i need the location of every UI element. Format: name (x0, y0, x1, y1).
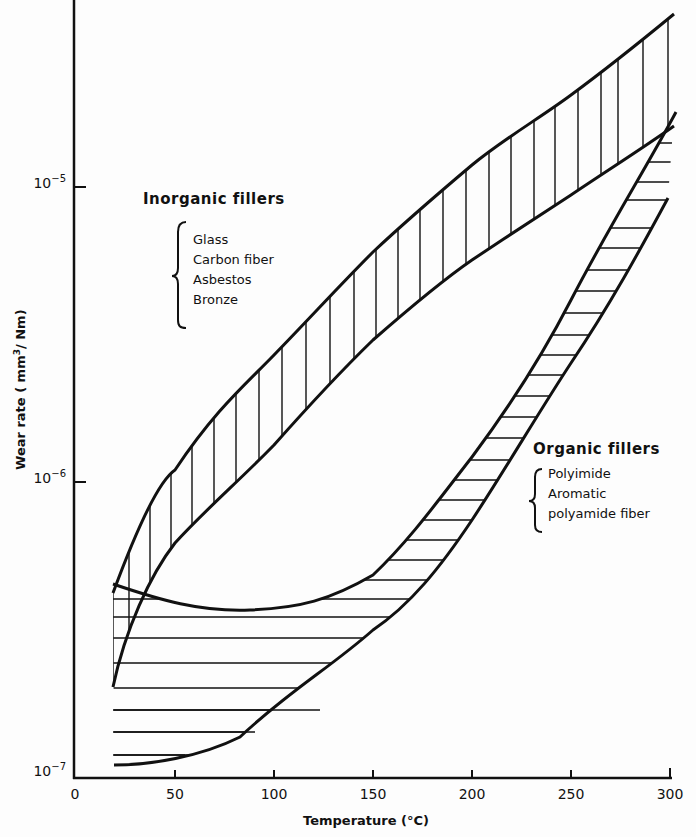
organic-item: Aromatic (548, 484, 650, 504)
x-tick-100: 100 (261, 786, 288, 802)
inorganic-item: Carbon fiber (193, 250, 274, 270)
wear-rate-chart (0, 0, 696, 837)
organic-upper-curve (113, 112, 676, 610)
organic-brace (529, 469, 542, 532)
x-tick-0: 0 (71, 786, 80, 802)
y-tick-1e-7: 10−7 (33, 761, 66, 779)
x-tick-300: 300 (657, 786, 684, 802)
inorganic-lower-curve (113, 126, 674, 687)
organic-item: polyamide fiber (548, 504, 650, 524)
x-tick-250: 250 (558, 786, 585, 802)
x-tick-200: 200 (459, 786, 486, 802)
x-tick-50: 50 (166, 786, 184, 802)
organic-item: Polyimide (548, 464, 650, 484)
inorganic-band-hatch (113, 0, 668, 800)
inorganic-fillers-title: Inorganic fillers (143, 190, 285, 208)
y-tick-1e-5: 10−5 (33, 173, 66, 191)
x-axis-label: Temperature (°C) (303, 813, 429, 828)
inorganic-item: Asbestos (193, 270, 274, 290)
y-tick-1e-6: 10−6 (33, 468, 66, 486)
organic-fillers-title: Organic fillers (533, 440, 660, 458)
inorganic-item: Glass (193, 230, 274, 250)
organic-fillers-list: Polyimide Aromatic polyamide fiber (548, 464, 650, 524)
inorganic-brace (172, 222, 186, 328)
y-axis-label: Wear rate ( mm3/ Nm) (12, 309, 28, 470)
inorganic-fillers-list: Glass Carbon fiber Asbestos Bronze (193, 230, 274, 310)
inorganic-item: Bronze (193, 290, 274, 310)
x-tick-150: 150 (360, 786, 387, 802)
